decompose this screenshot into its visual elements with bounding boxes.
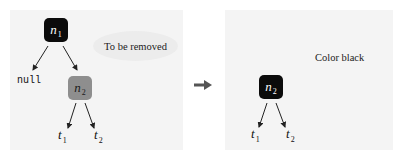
leaf-label: t — [251, 126, 255, 141]
node-n2-after: n2 — [259, 75, 283, 99]
annotation-color-black: Color black — [315, 52, 364, 63]
leaf-sub: 1 — [256, 135, 260, 144]
null-child: null — [17, 75, 41, 86]
node-n2-sub: 2 — [273, 87, 277, 96]
node-n2-before: n2 — [68, 76, 92, 100]
leaf-t2-before: t2 — [94, 127, 103, 143]
leaf-label: t — [94, 127, 98, 142]
leaf-t1-before: t1 — [58, 127, 67, 143]
node-n1-sub: 1 — [58, 30, 62, 39]
annotation-to-be-removed: To be removed — [93, 31, 178, 61]
leaf-t1-after: t1 — [251, 126, 260, 142]
node-n2-sub: 2 — [82, 88, 86, 97]
leaf-sub: 1 — [63, 136, 67, 145]
edge-n2-t2-before — [85, 103, 94, 128]
edge-n2-t1-after — [259, 103, 267, 127]
leaf-label: t — [58, 127, 62, 142]
edge-n2-t1-before — [68, 103, 76, 128]
annotation-text: To be removed — [104, 41, 167, 52]
leaf-label: t — [286, 126, 290, 141]
edge-n1-n2 — [63, 46, 77, 70]
node-n2-label: n — [74, 80, 81, 96]
edge-n2-t2-after — [276, 103, 285, 127]
leaf-sub: 2 — [291, 135, 295, 144]
node-n2-label: n — [265, 79, 272, 95]
node-n1-label: n — [50, 22, 57, 38]
leaf-t2-after: t2 — [286, 126, 295, 142]
arrow-right-icon — [194, 80, 212, 90]
node-n1: n1 — [44, 18, 68, 42]
edge-n1-null — [33, 46, 48, 70]
leaf-sub: 2 — [99, 136, 103, 145]
